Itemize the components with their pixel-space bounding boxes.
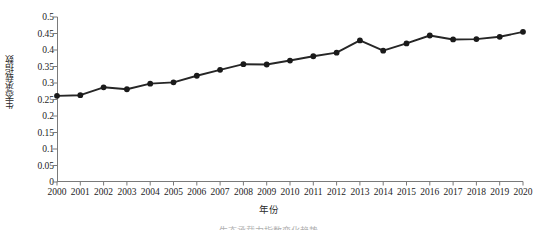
data-point (171, 79, 177, 85)
plot-area (57, 17, 523, 182)
y-tick-label: 0.15 (18, 128, 54, 138)
data-point (194, 73, 200, 79)
data-point (474, 36, 480, 42)
y-tick-label: 0.3 (18, 78, 54, 88)
y-tick-label: 0.1 (18, 144, 54, 154)
data-point (77, 92, 83, 98)
y-tick-label: 0.5 (18, 12, 54, 22)
data-point (357, 38, 363, 44)
x-axis-tick-marks (57, 182, 523, 186)
y-tick-label: 0.35 (18, 62, 54, 72)
data-point (427, 33, 433, 39)
data-point (54, 93, 60, 99)
data-point (241, 61, 247, 67)
data-series-markers (54, 29, 526, 99)
x-tick-label: 2020 (503, 186, 537, 198)
y-axis-title: 生态承载指数 (4, 55, 18, 109)
y-tick-label: 0.05 (18, 161, 54, 171)
data-point (520, 29, 526, 35)
data-point (380, 48, 386, 54)
data-point (287, 58, 293, 64)
data-point (310, 53, 316, 59)
data-point (101, 84, 107, 90)
y-tick-label: 0.25 (18, 95, 54, 105)
data-point (124, 86, 130, 92)
y-tick-label: 0.2 (18, 111, 54, 121)
line-chart-figure: 生态承载指数 0.50.450.40.350.30.250.20.150.10.… (0, 0, 537, 230)
y-tick-label: 0.45 (18, 29, 54, 39)
plot-svg (57, 17, 523, 182)
y-axis-tick-labels: 0.50.450.40.350.30.250.20.150.10.050 (18, 11, 54, 187)
data-point (334, 50, 340, 56)
figure-caption: 生态承载力指数变化趋势 (0, 224, 537, 230)
x-axis-title: 年份 (0, 202, 537, 216)
data-point (404, 41, 410, 47)
data-point (147, 81, 153, 87)
data-point (264, 62, 270, 68)
data-point (217, 67, 223, 73)
x-axis-tick-labels: 2000200120022003200420052006200720082009… (57, 186, 523, 200)
y-tick-label: 0.4 (18, 45, 54, 55)
data-point (450, 37, 456, 43)
data-point (497, 34, 503, 40)
